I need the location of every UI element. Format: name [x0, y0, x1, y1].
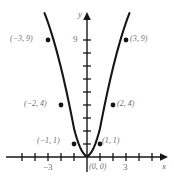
parabola-plot-svg [0, 0, 174, 180]
y-axis [83, 12, 91, 172]
x-tick-label-3: 3 [123, 162, 128, 172]
x-axis-arrow [160, 153, 168, 161]
y-axis-label: y [78, 9, 82, 19]
point-neg3-9 [46, 38, 51, 43]
point-neg2-4 [59, 103, 64, 108]
point-label-neg3-9: (−3, 9) [10, 34, 33, 43]
x-axis-label: x [162, 161, 166, 171]
point-label-2-4: (2, 4) [117, 99, 134, 108]
point-label-neg2-4: (−2, 4) [24, 99, 47, 108]
point-2-4 [111, 103, 116, 108]
point-label-1-1: (1, 1) [102, 136, 119, 145]
point-label-neg1-1: (−1, 1) [37, 136, 60, 145]
point-label-0-0: (0, 0) [89, 162, 106, 171]
point-3-9 [124, 38, 129, 43]
point-neg1-1 [72, 142, 77, 147]
x-tick-label-neg3: −3 [43, 162, 53, 172]
y-axis-arrow [83, 12, 91, 20]
y-tick-label-9: 9 [73, 34, 78, 44]
graph-canvas: (−3, 9) (−2, 4) (−1, 1) (0, 0) (1, 1) (2… [0, 0, 174, 180]
point-label-3-9: (3, 9) [130, 34, 147, 43]
